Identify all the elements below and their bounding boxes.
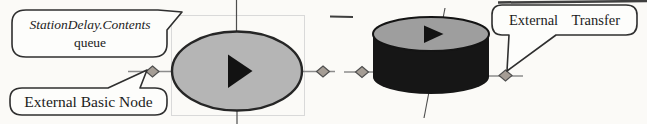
model-canvas: StationDelay.Contents queue External Bas…: [0, 0, 647, 124]
basic-node-diamond[interactable]: [146, 66, 159, 77]
transfer-callout-balloon: [492, 5, 637, 71]
basic-node-callout-balloon: [10, 70, 167, 115]
transfer-node-diamond[interactable]: [499, 70, 512, 81]
top-edge-artifact-line: [498, 1, 647, 3]
cylinder-input-node-diamond[interactable]: [356, 67, 369, 78]
ellipse-output-node-diamond[interactable]: [317, 66, 330, 77]
queue-callout-balloon: [12, 10, 182, 57]
small-artifact-dash: [330, 17, 353, 18]
